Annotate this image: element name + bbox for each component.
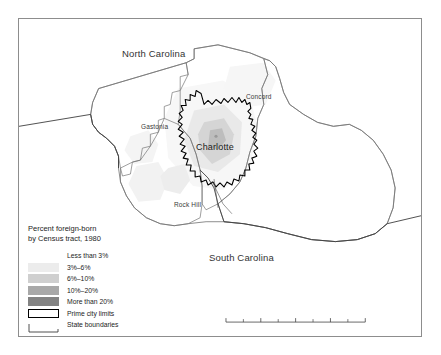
state-label-south-carolina: South Carolina [209,252,274,263]
tract-rockhill-core [160,164,190,194]
legend-item-more-than-20: More than 20% [28,296,163,307]
north-arrow-letter: N [417,319,422,329]
north-arrow-icon [422,330,423,337]
legend-item-less-than-3: Less than 3% [28,250,163,261]
legend-swatch-10-20 [28,286,59,295]
map-figure: North Carolina South Carolina Gastonia C… [0,0,441,355]
legend-item-3-6: 3%–6% [28,262,163,273]
legend-swatch-6-10 [28,274,59,283]
legend-label-more-than-20: More than 20% [67,298,113,305]
scalebar-graphic [226,318,365,322]
legend-title-line2: by Census tract, 1980 [28,234,163,244]
city-label-gastonia: Gastonia [141,123,168,130]
state-boundary-key-icon [28,323,59,334]
legend-label-less-than-3: Less than 3% [67,252,108,259]
legend-label-state-boundaries: State boundaries [67,321,118,328]
state-label-north-carolina: North Carolina [122,48,185,59]
legend-item-10-20: 10%–20% [28,285,163,296]
map-frame: North Carolina South Carolina Gastonia C… [18,18,422,337]
legend-class-list: Less than 3% 3%–6% 6%–10% 10%–20% More t [28,250,163,330]
legend-item-state-boundaries: State boundaries [28,319,163,330]
city-label-concord: Concord [246,93,272,100]
north-arrow: N [417,319,422,337]
legend-item-6-10: 6%–10% [28,273,163,284]
legend-item-prime-city-limits: Prime city limits [28,308,163,319]
legend-swatch-state-boundaries [28,320,59,329]
city-label-charlotte: Charlotte [196,142,234,152]
legend-swatch-prime-city-limits [28,309,59,318]
tract-downtown-speck [214,135,217,138]
legend-title: Percent foreign-born by Census tract, 19… [28,224,163,244]
legend-label-3-6: 3%–6% [67,264,90,271]
legend-label-10-20: 10%–20% [67,287,98,294]
legend-swatch-less-than-3 [28,251,59,260]
census-tract-shading [124,63,275,202]
legend: Percent foreign-born by Census tract, 19… [28,224,163,331]
legend-swatch-more-than-20 [28,297,59,306]
city-label-rock-hill: Rock Hill [174,201,201,208]
legend-title-line1: Percent foreign-born [28,224,163,234]
legend-label-prime-city-limits: Prime city limits [67,310,114,317]
legend-label-6-10: 6%–10% [67,275,94,282]
legend-swatch-3-6 [28,263,59,272]
